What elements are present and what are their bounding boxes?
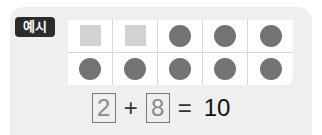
equation: 2 + 8 = 10 (0, 92, 322, 124)
dot-icon (169, 58, 191, 80)
grid-cell (68, 53, 113, 86)
example-badge: 예시 (15, 17, 55, 37)
grid-cell (203, 53, 248, 86)
dot-icon (214, 25, 236, 47)
dot-icon (79, 58, 101, 80)
equals-sign: = (178, 94, 192, 122)
grid-cell (68, 20, 113, 53)
grid-cell (203, 20, 248, 53)
grid-cell (158, 53, 203, 86)
dot-icon (214, 58, 236, 80)
plus-sign: + (124, 94, 138, 122)
square-icon (80, 25, 101, 46)
square-icon (125, 25, 146, 46)
grid-cell (113, 20, 158, 53)
grid-cell (248, 20, 293, 53)
dot-icon (260, 58, 282, 80)
sum-result: 10 (204, 94, 231, 122)
dot-icon (124, 58, 146, 80)
addend-box-b: 8 (146, 93, 170, 123)
grid-cell (158, 20, 203, 53)
dot-icon (169, 25, 191, 47)
grid-cell (248, 53, 293, 86)
dot-icon (260, 25, 282, 47)
addend-box-a: 2 (92, 93, 116, 123)
ten-frame-grid (68, 20, 293, 85)
grid-cell (113, 53, 158, 86)
